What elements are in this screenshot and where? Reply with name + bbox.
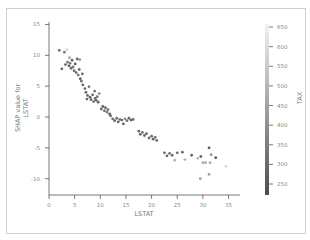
data-point — [166, 154, 169, 157]
data-point — [77, 74, 80, 77]
data-point — [81, 84, 84, 87]
scatter-chart: 151050-5-10 05101520253035 LSTAT SHAP va… — [0, 0, 310, 240]
data-point — [132, 118, 135, 121]
data-point — [84, 87, 87, 90]
svg-text:LSTAT: LSTAT — [22, 98, 30, 117]
y-tick-label: -10 — [31, 176, 40, 182]
data-point — [137, 130, 140, 133]
data-point — [74, 63, 77, 66]
data-point — [86, 98, 89, 101]
data-point — [199, 155, 202, 158]
data-point — [107, 108, 110, 111]
colorbar-label: TAX — [296, 91, 304, 105]
data-point — [92, 100, 95, 103]
data-point — [81, 72, 84, 75]
y-tick-label: 10 — [33, 52, 40, 58]
data-points — [58, 48, 228, 180]
data-point — [168, 152, 171, 155]
data-point — [86, 94, 89, 97]
data-point — [100, 108, 103, 111]
data-point — [120, 119, 123, 122]
svg-text:SHAP value for: SHAP value for — [14, 84, 22, 133]
data-point — [68, 56, 71, 59]
x-tick-label: 15 — [122, 202, 129, 208]
data-point — [145, 132, 148, 135]
data-point — [171, 154, 174, 157]
data-point — [101, 105, 104, 108]
data-point — [79, 77, 82, 80]
data-point — [97, 101, 100, 104]
colorbar-tick-label: 350 — [277, 142, 288, 148]
x-axis-label: LSTAT — [134, 210, 153, 218]
data-point — [103, 109, 106, 112]
data-point — [126, 119, 129, 122]
data-point — [68, 64, 71, 67]
data-point — [66, 61, 69, 64]
data-point — [106, 111, 109, 114]
y-axis-label: SHAP value for LSTAT — [14, 84, 30, 133]
data-point — [209, 161, 212, 164]
data-point — [173, 159, 176, 162]
data-point — [155, 139, 158, 142]
y-axis-ticks: 151050-5-10 — [31, 21, 49, 181]
data-point — [214, 156, 217, 159]
x-axis-ticks: 05101520253035 — [47, 195, 232, 208]
data-point — [96, 95, 99, 98]
data-point — [60, 67, 63, 70]
data-point — [141, 131, 144, 134]
x-tick-label: 30 — [199, 202, 206, 208]
data-point — [199, 177, 202, 180]
colorbar-tick-label: 250 — [277, 181, 288, 187]
y-tick-label: 5 — [37, 83, 41, 89]
data-point — [72, 66, 75, 69]
data-point — [148, 137, 151, 140]
data-point — [181, 151, 184, 154]
x-tick-label: 20 — [148, 202, 155, 208]
x-tick-label: 10 — [97, 202, 104, 208]
data-point — [154, 136, 157, 139]
x-tick-label: 5 — [73, 202, 77, 208]
data-point — [184, 158, 187, 161]
data-point — [210, 153, 213, 156]
data-point — [90, 98, 93, 101]
colorbar-tick-label: 450 — [277, 103, 288, 109]
data-point — [85, 91, 88, 94]
data-point — [163, 151, 166, 154]
data-point — [117, 121, 120, 124]
data-point — [115, 117, 118, 120]
data-point — [78, 58, 81, 61]
data-point — [113, 119, 116, 122]
data-point — [196, 157, 199, 160]
colorbar-tick-label: 600 — [277, 44, 288, 50]
data-point — [63, 51, 66, 54]
data-point — [122, 122, 125, 125]
y-tick-label: -5 — [35, 145, 41, 151]
data-point — [93, 90, 96, 93]
data-point — [202, 161, 205, 164]
data-point — [109, 114, 112, 117]
data-point — [71, 59, 74, 62]
colorbar-tick-label: 400 — [277, 122, 288, 128]
data-point — [78, 68, 81, 71]
data-point — [176, 151, 179, 154]
data-point — [91, 93, 94, 96]
data-point — [64, 63, 67, 66]
data-point — [89, 96, 92, 99]
colorbar — [265, 24, 269, 195]
data-point — [80, 80, 83, 83]
data-point — [150, 135, 153, 138]
data-point — [208, 173, 211, 176]
data-point — [208, 146, 211, 149]
data-point — [69, 62, 72, 65]
data-point — [58, 49, 61, 52]
x-tick-label: 35 — [225, 202, 232, 208]
data-point — [66, 48, 69, 51]
x-tick-label: 25 — [174, 202, 181, 208]
data-point — [204, 161, 207, 164]
data-point — [190, 154, 193, 157]
data-point — [225, 165, 228, 168]
x-tick-label: 0 — [47, 202, 51, 208]
colorbar-tick-label: 300 — [277, 161, 288, 167]
y-tick-label: 15 — [33, 21, 40, 27]
data-point — [88, 85, 91, 88]
